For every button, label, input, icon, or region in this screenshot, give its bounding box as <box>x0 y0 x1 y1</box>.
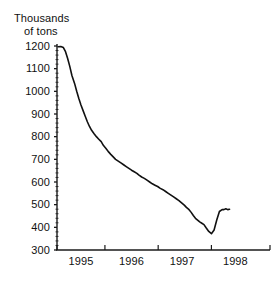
plot-area <box>0 0 274 285</box>
chart-figure: Thousands of tons 3004005006007008009001… <box>0 0 274 285</box>
data-series-line <box>58 46 229 233</box>
clipped-caption <box>8 277 266 284</box>
